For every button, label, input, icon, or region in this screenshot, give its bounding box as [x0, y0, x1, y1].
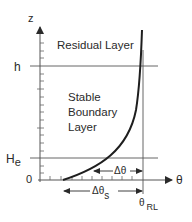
- theta-axis-ticks: [50, 176, 132, 180]
- theta-axis-label: θ: [176, 173, 183, 187]
- he-label: He: [6, 152, 21, 168]
- diagram-svg: z h He 0 θ Residual Layer Stable Boundar…: [0, 0, 192, 222]
- theta-profile-curve: [63, 30, 142, 180]
- delta-theta-s-subscript: s: [104, 190, 109, 201]
- residual-layer-label: Residual Layer: [57, 39, 134, 51]
- he-label-subscript: e: [15, 156, 21, 168]
- delta-theta-label: Δθ: [114, 165, 127, 176]
- he-label-main: H: [6, 152, 15, 166]
- theta-rl-subscript: RL: [147, 202, 159, 212]
- stable-layer-label-line2: Boundary: [68, 106, 117, 118]
- stable-boundary-layer-diagram: z h He 0 θ Residual Layer Stable Boundar…: [0, 0, 192, 222]
- delta-theta-s-main: Δθ: [92, 185, 105, 196]
- h-label: h: [14, 60, 21, 74]
- origin-label: 0: [26, 173, 32, 185]
- z-axis-label: z: [28, 12, 34, 24]
- stable-layer-label-line3: Layer: [68, 121, 97, 133]
- theta-rl-label: θRL: [139, 197, 158, 212]
- stable-layer-label-line1: Stable: [68, 91, 101, 103]
- theta-rl-main: θ: [139, 197, 145, 208]
- delta-theta-s-label: Δθs: [92, 185, 109, 201]
